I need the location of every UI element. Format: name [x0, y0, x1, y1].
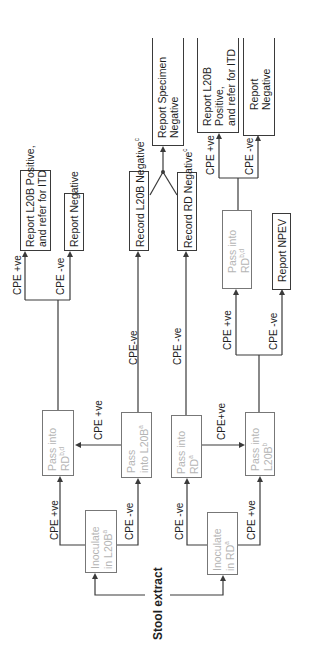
edge-label-cpe-neg: CPE -ve — [124, 503, 136, 540]
arrow-up-icon — [233, 289, 239, 295]
report-npev-box: Report NPEV — [272, 213, 291, 290]
edge-label-cpe-pos: CPE +ve — [93, 400, 105, 440]
inoculate-rd-text: Inoculate in RDa — [211, 528, 236, 571]
arrow-up-icon — [220, 575, 226, 581]
report-specimen-negative-box: Report Specimen Negative — [152, 38, 184, 146]
record-rd-negative-box: Record RD Negativec — [177, 172, 197, 251]
report-negative-text-1: Report Negative — [68, 171, 80, 247]
edge-label-cpe-neg: CPE -ve — [244, 138, 256, 175]
start-label: Stool extract — [152, 567, 166, 640]
pass-l20b-box-2: Pass into L20Bb — [245, 412, 275, 476]
edge-label-cpe-pos: CPE +ve — [49, 500, 61, 540]
report-l20b-positive-text-2: Report L20B Positive, and refer for ITD — [201, 49, 237, 126]
record-l20b-negative-box: Record L20B Negativec — [129, 171, 149, 251]
edge-label-cpe-pos: CPE +ve — [12, 255, 24, 295]
inoculate-l20b-box: Inoculate in L20Ba — [85, 510, 117, 573]
record-l20b-negative-text: Record L20B Negativec — [133, 138, 146, 247]
arrow-up-icon — [184, 478, 190, 484]
pass-rd-box-2: Pass into RDa — [171, 415, 202, 478]
pass-rd-box-3: Pass into RDb,d — [222, 210, 252, 289]
edge-label-cpe-neg: CPE -ve — [55, 258, 67, 295]
edge-label-cpe-pos: CPE +ve — [246, 500, 258, 540]
pass-l20b-text-1: Pass into L20Ba — [125, 425, 150, 473]
edge-label-cpe-pos: CPE +ve — [205, 135, 217, 175]
edge-label-cpe-neg: CPE -ve — [268, 313, 280, 350]
edge-label-cpe-pos: CPE+ve — [216, 403, 228, 440]
edge-label-cpe-neg: CPE -ve — [174, 503, 186, 540]
arrow-up-icon — [92, 573, 98, 579]
arrow-up-icon — [57, 476, 63, 482]
report-l20b-positive-box-2: Report L20B Positive, and refer for ITD — [197, 38, 239, 133]
report-l20b-positive-box-1: Report L20B Positive, and refer for ITD — [20, 170, 51, 251]
arrow-up-icon — [183, 251, 189, 257]
arrow-up-icon — [135, 478, 141, 484]
report-negative-text-2: Report Negative — [248, 69, 272, 110]
arrow-left-icon — [75, 442, 81, 448]
arrow-up-icon — [216, 133, 222, 139]
arrow-up-icon — [67, 251, 73, 257]
pass-rd-text-1: Pass into RDb,d — [46, 428, 71, 471]
inoculate-rd-box: Inoculate in RDa — [207, 512, 238, 575]
report-negative-box-2: Report Negative — [243, 38, 275, 136]
report-negative-box-1: Report Negative — [64, 193, 84, 251]
junction-dot — [161, 170, 165, 174]
pass-l20b-box-1: Pass into L20Ba — [121, 412, 152, 478]
report-npev-text: Report NPEV — [276, 219, 288, 282]
pass-l20b-text-2: Pass into L20Bb — [249, 428, 274, 471]
pass-rd-box-1: Pass into RDb,d — [42, 410, 74, 476]
edge-label-cpe-neg: CPE -ve — [172, 328, 184, 365]
report-specimen-negative-text: Report Specimen Negative — [156, 57, 180, 138]
arrow-up-icon — [135, 251, 141, 257]
pass-rd-text-3: Pass into RDb,d — [226, 230, 251, 273]
arrow-up-icon — [257, 476, 263, 482]
pass-rd-text-2: Pass into RDa — [175, 431, 200, 474]
arrow-up-icon — [160, 146, 166, 152]
inoculate-l20b-text: Inoculate in L20Ba — [89, 526, 114, 569]
report-l20b-positive-text-1: Report L20B Positive, and refer for ITD — [24, 145, 48, 247]
edge-label-cpe-pos: CPE +ve — [222, 310, 234, 350]
record-rd-negative-text: Record RD Negativec — [181, 148, 194, 248]
edge-label-cpe-neg: CPE-ve — [128, 331, 140, 365]
